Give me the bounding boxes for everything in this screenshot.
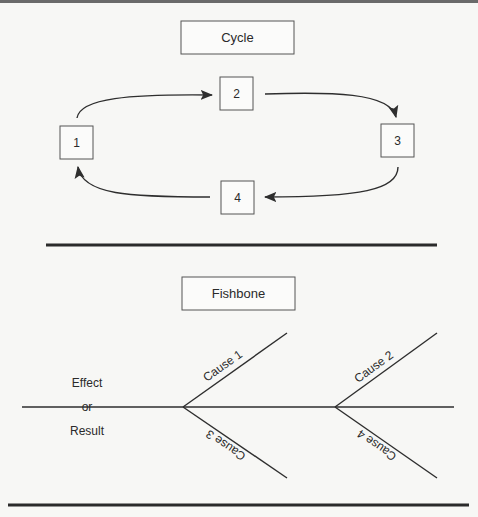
cycle-title: Cycle — [221, 30, 254, 45]
bone-cause-3 — [183, 407, 287, 478]
cause-4-label: Cause 4 — [354, 427, 399, 464]
cycle-node-4-label: 4 — [234, 191, 241, 205]
effect-label-line3: Result — [70, 424, 105, 438]
cycle-node-4: 4 — [221, 181, 254, 214]
arrow-4-to-1 — [78, 167, 210, 197]
effect-label-line1: Effect — [72, 376, 103, 390]
diagram-canvas: Cycle 1 2 3 4 Fishbone Effect or Result … — [0, 0, 478, 517]
cycle-node-3: 3 — [381, 124, 414, 157]
arrow-2-to-3 — [265, 93, 396, 117]
bone-cause-2 — [335, 333, 437, 407]
bone-cause-4 — [335, 407, 437, 478]
cycle-node-2: 2 — [220, 77, 253, 110]
cycle-node-1: 1 — [60, 126, 93, 159]
fishbone-title-box: Fishbone — [182, 277, 295, 310]
bone-cause-1 — [183, 333, 287, 407]
cause-3-label: Cause 3 — [203, 427, 248, 464]
fishbone-title: Fishbone — [212, 286, 265, 301]
cycle-node-3-label: 3 — [394, 134, 401, 148]
arrow-3-to-4 — [265, 167, 398, 197]
cycle-title-box: Cycle — [181, 21, 294, 54]
cycle-node-1-label: 1 — [73, 136, 80, 150]
cycle-node-2-label: 2 — [233, 87, 240, 101]
arrow-1-to-2 — [77, 95, 212, 118]
